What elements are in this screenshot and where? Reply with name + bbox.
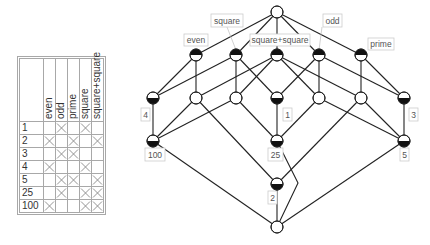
attribute-label-text: prime	[370, 39, 392, 49]
attribute-label: prime	[368, 38, 394, 50]
concept-node-o3[interactable]	[398, 92, 410, 104]
lattice-edge	[153, 98, 236, 141]
concept-node-o5[interactable]	[398, 135, 410, 147]
object-label-text: 3	[411, 110, 416, 120]
concept-node-o100[interactable]	[147, 135, 159, 147]
lattice-edge	[196, 98, 277, 184]
object-label: 4	[141, 108, 150, 121]
object-label: 3	[409, 108, 418, 121]
object-label: 1	[283, 108, 292, 121]
lattice-edge	[153, 55, 236, 98]
concept-node-even[interactable]	[190, 49, 202, 61]
concept-node-o1[interactable]	[271, 92, 283, 104]
concept-node-square[interactable]	[230, 49, 242, 61]
lattice-labels: evensquaresquare+squareoddprime413100255…	[141, 14, 418, 204]
object-label-text: 4	[143, 110, 148, 120]
object-label-text: 25	[271, 150, 281, 160]
concept-node-o4[interactable]	[147, 92, 159, 104]
attribute-label-text: even	[187, 35, 206, 45]
attribute-label: even	[184, 34, 208, 46]
concept-node-odd[interactable]	[313, 49, 325, 61]
attribute-label: square+square	[250, 34, 310, 46]
object-label-text: 1	[285, 110, 290, 120]
label-leader-line	[319, 27, 322, 50]
concept-node-prime_ss[interactable]	[355, 92, 367, 104]
concept-node-even_ss[interactable]	[190, 92, 202, 104]
attribute-label: square	[211, 14, 243, 27]
lattice-edge	[361, 98, 404, 141]
concept-node-bottom[interactable]	[271, 221, 283, 233]
lattice-edge	[361, 55, 404, 98]
lattice-edge	[277, 141, 404, 227]
lattice-edge	[236, 98, 277, 141]
concept-node-odd_ss[interactable]	[313, 92, 325, 104]
lattice-edge	[153, 141, 277, 227]
object-label-text: 5	[402, 150, 407, 160]
attribute-label-text: square+square	[252, 35, 309, 45]
attribute-label-text: square	[214, 16, 240, 26]
object-label: 100	[145, 148, 165, 161]
attribute-label: odd	[323, 14, 342, 27]
concept-node-prime[interactable]	[355, 49, 367, 61]
attribute-label-text: odd	[325, 16, 339, 26]
object-label: 2	[268, 191, 277, 204]
lattice-edge	[277, 12, 319, 55]
object-label: 5	[400, 148, 409, 161]
lattice-edge	[153, 55, 196, 98]
label-leader-line	[227, 27, 236, 50]
concept-node-top[interactable]	[271, 6, 283, 18]
concept-node-o2[interactable]	[271, 178, 283, 190]
concept-node-sqsq[interactable]	[271, 49, 283, 61]
lattice-edge	[153, 98, 196, 141]
concept-lattice: evensquaresquare+squareoddprime413100255…	[0, 0, 430, 245]
object-label: 25	[268, 148, 283, 161]
concept-node-sq_ss[interactable]	[230, 92, 242, 104]
object-label-text: 100	[148, 150, 162, 160]
object-label-text: 2	[270, 193, 275, 203]
concept-node-o25[interactable]	[271, 135, 283, 147]
